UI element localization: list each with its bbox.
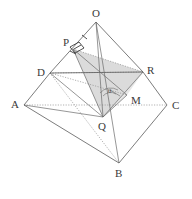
vertex-label-A: A [11, 98, 19, 110]
geometry-figure: θ O A B C D P R Q M [0, 0, 192, 199]
vertex-label-D: D [37, 66, 45, 78]
vertex-label-R: R [147, 64, 155, 76]
vertex-label-M: M [131, 94, 141, 106]
edge-rc [143, 72, 167, 105]
vertex-label-O: O [92, 7, 100, 19]
section-quad-prmq [73, 49, 143, 117]
shaded-section [73, 49, 143, 117]
vertex-label-Q: Q [98, 120, 106, 132]
edge-cb [119, 105, 167, 163]
vertex-label-P: P [63, 36, 69, 48]
geometry-canvas: θ O A B C D P R Q M [0, 0, 192, 199]
vertex-label-C: C [172, 99, 179, 111]
vertex-label-B: B [115, 167, 122, 179]
